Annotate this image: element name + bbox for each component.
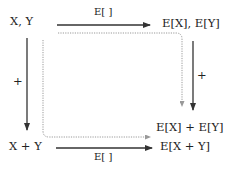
node-e-x-plus-y: E[X + Y] [160,141,210,153]
node-ex-plus-ey: E[X] + E[Y] [156,122,223,134]
dotted-path-top-right [58,33,182,106]
commutative-diagram: X, Y E[X], E[Y] E[X] + E[Y] X + Y E[X + … [0,0,235,175]
dotted-path-left-bottom [43,40,150,137]
right-arrow-label: + [197,70,207,82]
left-arrow-label: + [13,76,23,88]
node-x-y: X, Y [10,16,33,28]
node-ex-ey: E[X], E[Y] [162,18,220,30]
node-x-plus-y: X + Y [9,141,42,153]
bottom-arrow-label: E[ ] [94,152,112,162]
top-arrow-label: E[ ] [94,7,112,17]
